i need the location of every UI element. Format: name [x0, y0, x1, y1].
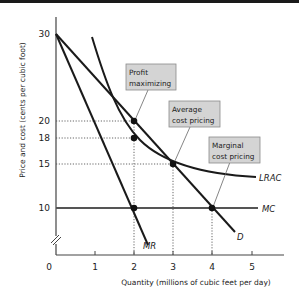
x-origin-label: 0 — [46, 262, 52, 272]
callout-profit-line2: maximizing — [129, 79, 171, 88]
callout-average-line1: Average — [172, 105, 202, 114]
callout-profit-maximizing: Profit maximizing — [126, 64, 176, 90]
y-tick-30: 30 — [39, 29, 51, 39]
x-tick-4: 4 — [209, 262, 215, 272]
y-tick-20: 20 — [39, 116, 51, 126]
callout-average-cost-pricing: Average cost pricing — [169, 101, 220, 127]
point-profit-max-price — [131, 118, 138, 125]
callout-marginal-line2: cost pricing — [212, 152, 254, 161]
point-average-cost — [170, 161, 177, 168]
point-profit-max-cost — [131, 135, 138, 142]
mr-label: MR — [143, 241, 156, 251]
marginal-leader — [213, 162, 230, 207]
y-tick-10: 10 — [39, 203, 51, 213]
point-mr-mc — [131, 205, 138, 212]
x-axis-title: Quantity (millions of cubic feet per day… — [121, 278, 271, 287]
x-tick-5: 5 — [249, 262, 255, 272]
y-tick-15: 15 — [39, 159, 50, 169]
y-tick-18: 18 — [39, 133, 51, 143]
x-tick-3: 3 — [170, 262, 176, 272]
mc-label: MC — [262, 204, 275, 214]
callout-marginal-line1: Marginal — [212, 141, 243, 150]
lrac-label: LRAC — [259, 173, 281, 183]
x-tick-1: 1 — [92, 262, 98, 272]
callout-average-line2: cost pricing — [172, 116, 214, 125]
callout-marginal-cost-pricing: Marginal cost pricing — [209, 137, 260, 163]
axis-break-icon — [50, 235, 62, 245]
chart: 0 1 2 3 4 5 30 20 18 15 10 Price and cos… — [0, 0, 299, 297]
d-label: D — [237, 232, 244, 242]
y-axis-title: Price and cost (cents per cubic foot) — [18, 42, 27, 178]
average-leader — [174, 127, 190, 163]
axes — [50, 17, 284, 255]
callout-profit-line1: Profit — [129, 68, 148, 77]
profit-leader — [135, 90, 148, 120]
x-tick-2: 2 — [131, 262, 137, 272]
point-marginal-cost — [209, 205, 216, 212]
